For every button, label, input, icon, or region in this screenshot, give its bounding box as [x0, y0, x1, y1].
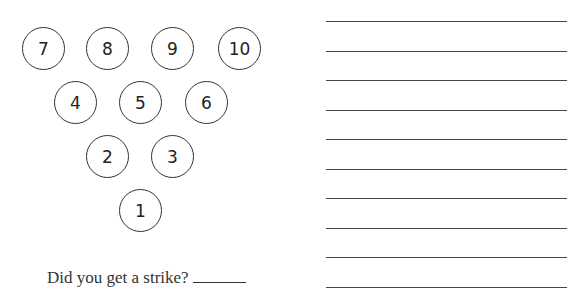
- pin-number: 10: [229, 39, 251, 59]
- pin-number: 6: [201, 93, 212, 113]
- pin-number: 4: [70, 93, 81, 113]
- pin-number: 9: [167, 39, 178, 59]
- pin-number: 8: [102, 39, 113, 59]
- writing-line-4[interactable]: [326, 110, 567, 111]
- strike-answer-blank[interactable]: [193, 268, 246, 283]
- pin-1: 1: [119, 189, 162, 232]
- pin-5: 5: [119, 81, 162, 124]
- pin-number: 7: [38, 39, 49, 59]
- pin-4: 4: [54, 81, 97, 124]
- writing-line-2[interactable]: [326, 51, 567, 52]
- writing-line-9[interactable]: [326, 257, 567, 258]
- pin-9: 9: [151, 27, 194, 70]
- pin-number: 2: [102, 147, 113, 167]
- writing-line-7[interactable]: [326, 198, 567, 199]
- writing-line-8[interactable]: [326, 228, 567, 229]
- strike-question-text: Did you get a strike?: [47, 268, 189, 287]
- pin-number: 5: [135, 93, 146, 113]
- pin-number: 3: [167, 147, 178, 167]
- strike-question: Did you get a strike?: [47, 268, 246, 288]
- pin-6: 6: [185, 81, 228, 124]
- pin-10: 10: [218, 27, 261, 70]
- writing-line-1[interactable]: [326, 21, 567, 22]
- writing-line-10[interactable]: [326, 287, 567, 288]
- writing-line-5[interactable]: [326, 139, 567, 140]
- pin-3: 3: [151, 135, 194, 178]
- pin-8: 8: [86, 27, 129, 70]
- pin-7: 7: [22, 27, 65, 70]
- writing-line-3[interactable]: [326, 80, 567, 81]
- pin-number: 1: [135, 201, 146, 221]
- pin-2: 2: [86, 135, 129, 178]
- writing-line-6[interactable]: [326, 169, 567, 170]
